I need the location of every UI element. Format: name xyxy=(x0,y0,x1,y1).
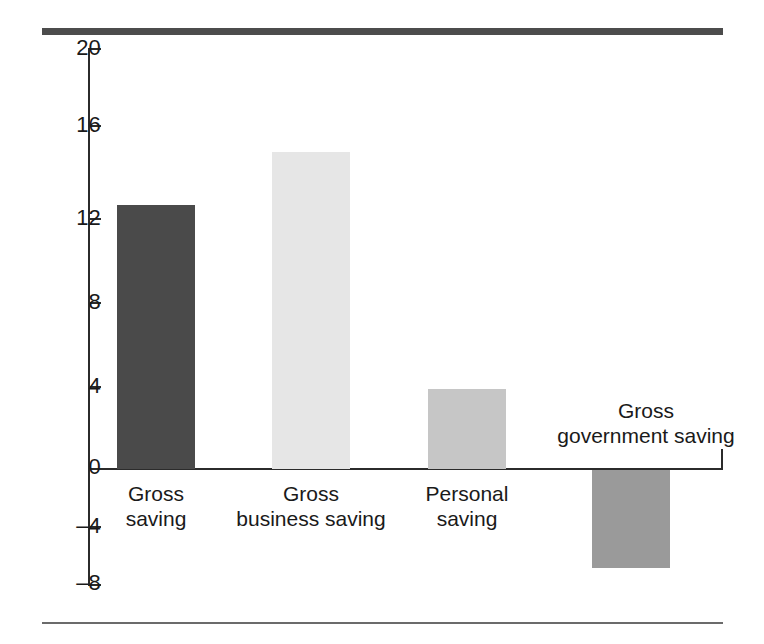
bar-chart-plot: 20 16 12 8 4 0 –4 –8 xyxy=(0,0,764,644)
leader-line-vertical xyxy=(721,449,723,469)
y-tick-label-16: 16 xyxy=(59,114,101,136)
bar-personal-saving xyxy=(428,389,506,469)
category-label-gross-saving: Gross saving xyxy=(76,481,236,531)
y-tick-label-8: 8 xyxy=(59,291,101,313)
y-tick-label-0: 0 xyxy=(59,456,101,478)
y-tick-label-20: 20 xyxy=(59,37,101,59)
bar-gross-business-saving xyxy=(272,152,350,469)
category-label-gross-government-saving: Gross government saving xyxy=(548,398,744,448)
chart-figure: 20 16 12 8 4 0 –4 –8 xyxy=(0,0,764,644)
bar-gross-government-saving xyxy=(592,470,670,568)
bar-gross-saving xyxy=(117,205,195,469)
y-tick-label-4: 4 xyxy=(59,375,101,397)
y-tick-label-12: 12 xyxy=(59,207,101,229)
y-tick-label-neg8: –8 xyxy=(59,572,101,594)
category-label-personal-saving: Personal saving xyxy=(382,481,552,531)
category-label-gross-business-saving: Gross business saving xyxy=(221,481,401,531)
